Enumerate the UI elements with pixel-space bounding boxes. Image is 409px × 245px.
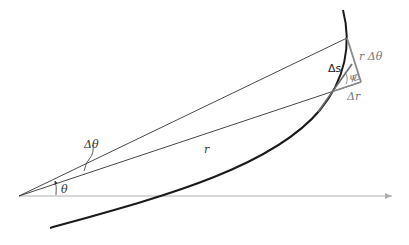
label-psi: ψ bbox=[349, 71, 357, 82]
ray-lower-r bbox=[19, 82, 361, 196]
label-theta: θ bbox=[61, 183, 68, 196]
ray-upper bbox=[19, 38, 347, 196]
label-delta-r: Δr bbox=[346, 90, 361, 103]
label-delta-s: Δs bbox=[328, 62, 342, 75]
label-delta-theta: Δθ bbox=[83, 138, 99, 151]
theta-arc bbox=[55, 181, 56, 195]
polar-curve bbox=[50, 10, 347, 228]
label-r-delta-theta: r Δθ bbox=[359, 50, 383, 63]
polar-diagram: θ Δθ r Δs r Δθ Δr ψ bbox=[0, 0, 409, 245]
label-r: r bbox=[204, 143, 210, 156]
